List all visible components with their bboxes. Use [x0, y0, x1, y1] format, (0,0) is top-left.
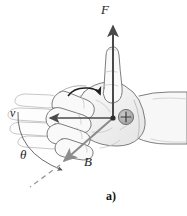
field-label: B — [84, 155, 92, 168]
figure-panel: F v θ B a) — [0, 0, 187, 216]
charge-symbol — [118, 109, 133, 124]
panel-label: a) — [106, 189, 116, 204]
force-label: F — [101, 3, 109, 16]
angle-label: θ — [20, 148, 26, 161]
hand-right-hand-rule-illustration — [0, 0, 187, 216]
field-extension-line — [30, 165, 60, 187]
velocity-label: v — [10, 107, 15, 119]
hand-drawing — [8, 47, 187, 160]
vector-origin-dot — [110, 115, 115, 120]
